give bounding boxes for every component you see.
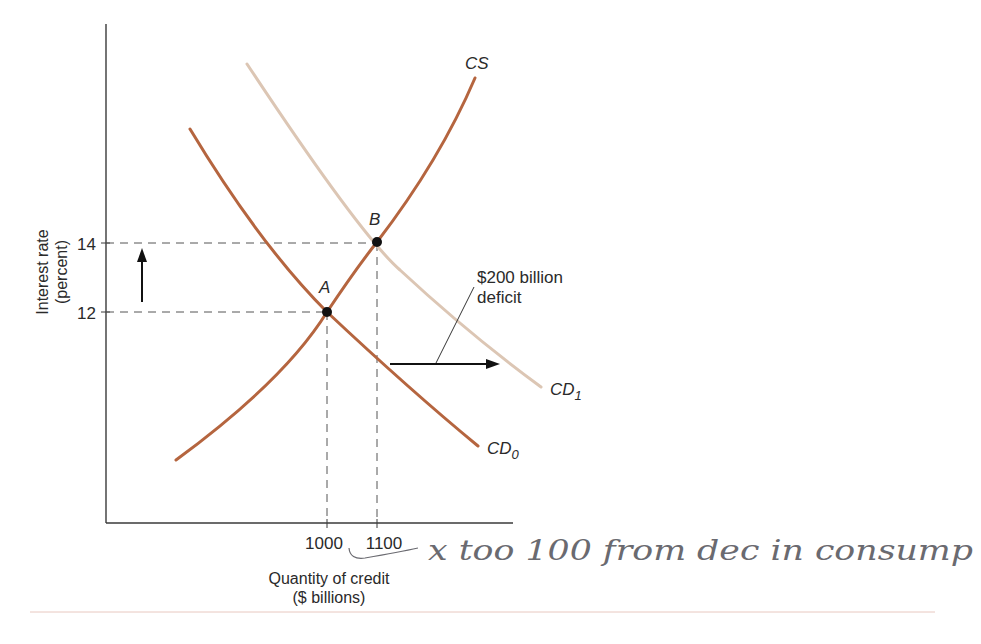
deficit-label-line2: deficit bbox=[477, 288, 522, 307]
handwritten-note: x too 100 from dec in consump bbox=[428, 534, 973, 567]
y-axis-title: Interest rate bbox=[34, 229, 51, 314]
point-a-label: A bbox=[318, 278, 330, 297]
point-a-marker bbox=[322, 307, 332, 317]
cs-curve bbox=[176, 78, 475, 460]
deficit-label-line1: $200 billion bbox=[477, 268, 563, 287]
x-axis-title: Quantity of credit bbox=[269, 570, 391, 587]
cd1-label: CD1 bbox=[550, 380, 582, 403]
credit-market-chart: 14 12 1000 1100 Interest rate (percent) … bbox=[0, 0, 981, 644]
point-b-marker bbox=[372, 237, 382, 247]
point-b-label: B bbox=[369, 210, 380, 229]
y-axis-units: (percent) bbox=[53, 240, 70, 304]
arrow-right-head bbox=[486, 359, 500, 369]
guide-lines bbox=[106, 243, 377, 523]
arrow-up-head bbox=[137, 248, 147, 262]
x-tick-label-1100: 1100 bbox=[366, 534, 403, 553]
x-axis-units: ($ billions) bbox=[293, 589, 366, 606]
deficit-leader-line bbox=[436, 287, 474, 363]
x-tick-label-1000: 1000 bbox=[305, 534, 343, 553]
cs-label: CS bbox=[465, 54, 489, 73]
y-tick-label-12: 12 bbox=[77, 304, 96, 323]
y-tick-label-14: 14 bbox=[77, 235, 96, 254]
cd1-curve bbox=[247, 64, 541, 387]
cd0-label: CD0 bbox=[487, 439, 520, 462]
cd0-curve bbox=[190, 129, 478, 446]
